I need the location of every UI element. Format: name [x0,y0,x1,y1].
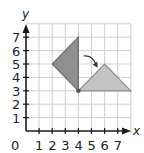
x-tick-label: 2 [48,138,56,153]
center-of-rotation-point [76,89,81,94]
y-tick-label: 2 [12,97,20,112]
rotation-arrow [84,56,96,64]
y-tick-label: 4 [12,70,20,85]
coordinate-plane: y x 0 12345671234567 [0,0,144,153]
x-tick-label: 5 [88,138,96,153]
y-tick-label: 3 [12,84,20,99]
y-tick-label: 1 [12,111,20,126]
x-tick-label: 6 [101,138,109,153]
x-tick-label: 1 [35,138,43,153]
y-axis-arrow-icon [23,24,30,33]
y-axis-label: y [21,7,30,21]
x-axis-arrow-icon [122,128,131,135]
origin-label: 0 [11,138,19,153]
x-tick-label: 4 [74,138,82,153]
x-tick-label: 7 [114,138,122,153]
y-tick-label: 7 [12,30,20,45]
y-tick-label: 6 [12,44,20,59]
y-tick-label: 5 [12,57,20,72]
x-tick-label: 3 [61,138,69,153]
x-axis-label: x [132,124,141,138]
